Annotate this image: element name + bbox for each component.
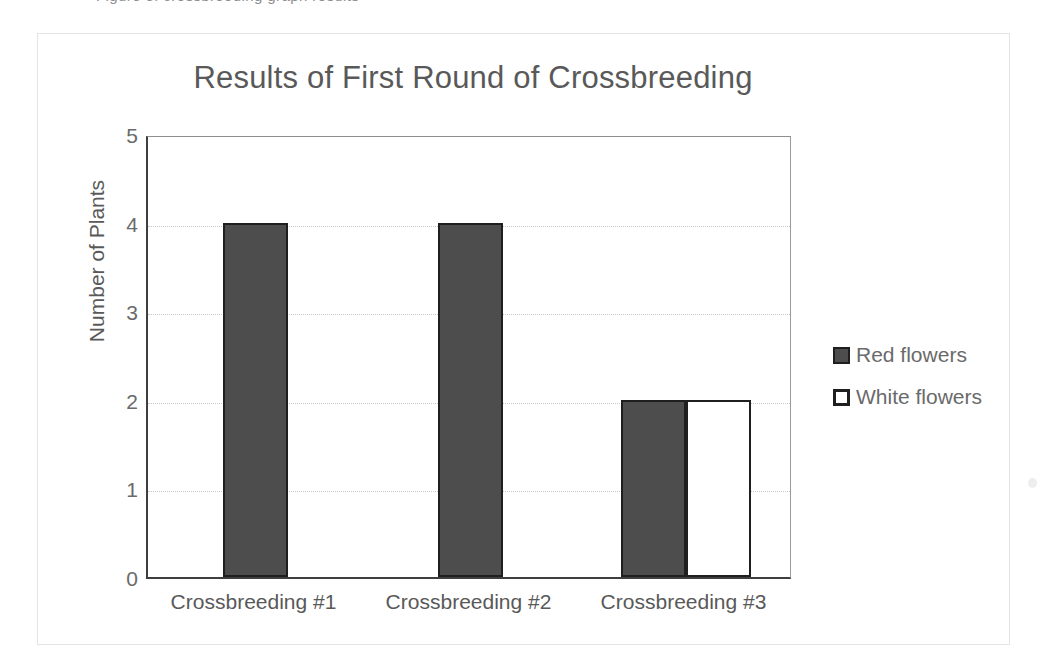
plot-area: [146, 136, 791, 579]
chart-figure: Results of First Round of Crossbreeding …: [37, 33, 1010, 645]
y-tick-label: 1: [98, 478, 138, 502]
y-tick-label: 2: [98, 390, 138, 414]
bar-3-white-flowers: [686, 400, 751, 577]
bar-1-red-flowers: [223, 223, 288, 577]
y-tick-label: 0: [98, 567, 138, 591]
filled-square-swatch-icon: [833, 347, 850, 364]
y-tick-label: 5: [98, 124, 138, 148]
legend-item-label: White flowers: [856, 385, 982, 409]
x-tick-label: Crossbreeding #1: [171, 590, 337, 614]
y-axis-tick-labels: 012345: [86, 136, 138, 579]
scan-speck-icon: [1028, 478, 1037, 488]
cut-off-text-ghost: Figure of crossbreeding graph results: [96, 0, 359, 4]
legend-item-label: Red flowers: [856, 343, 967, 367]
scan-top-artifact: Figure of crossbreeding graph results: [0, 0, 1046, 12]
bar-3-red-flowers: [621, 400, 686, 577]
chart-title: Results of First Round of Crossbreeding: [38, 60, 908, 96]
x-axis-tick-labels: Crossbreeding #1Crossbreeding #2Crossbre…: [146, 590, 791, 624]
outlined-square-swatch-icon: [833, 389, 850, 406]
legend-item: White flowers: [833, 376, 1008, 418]
legend-item: Red flowers: [833, 334, 1008, 376]
y-tick-label: 4: [98, 213, 138, 237]
y-tick-label: 3: [98, 301, 138, 325]
x-tick-label: Crossbreeding #3: [601, 590, 767, 614]
bar-2-red-flowers: [438, 223, 503, 577]
chart-legend: Red flowersWhite flowers: [833, 334, 1008, 418]
x-tick-label: Crossbreeding #2: [386, 590, 552, 614]
